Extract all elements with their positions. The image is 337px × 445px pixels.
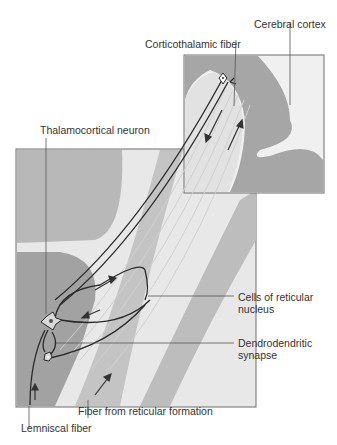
label-dendrodendritic-synapse: Dendrodendritic synapse	[238, 337, 312, 361]
diagram	[0, 0, 337, 445]
label-corticothalamic-fiber: Corticothalamic fiber	[145, 38, 241, 50]
label-cells-reticular-line2: nucleus	[238, 303, 313, 315]
label-dendrodendritic-line2: synapse	[238, 349, 312, 361]
label-cells-reticular: Cells of reticular nucleus	[238, 291, 313, 315]
label-cerebral-cortex: Cerebral cortex	[254, 18, 326, 30]
label-thalamocortical-neuron: Thalamocortical neuron	[40, 124, 150, 136]
label-dendrodendritic-line1: Dendrodendritic	[238, 337, 312, 349]
label-cells-reticular-line1: Cells of reticular	[238, 291, 313, 303]
label-fiber-reticular-formation: Fiber from reticular formation	[78, 405, 213, 417]
label-lemniscal-fiber: Lemniscal fiber	[21, 422, 92, 434]
